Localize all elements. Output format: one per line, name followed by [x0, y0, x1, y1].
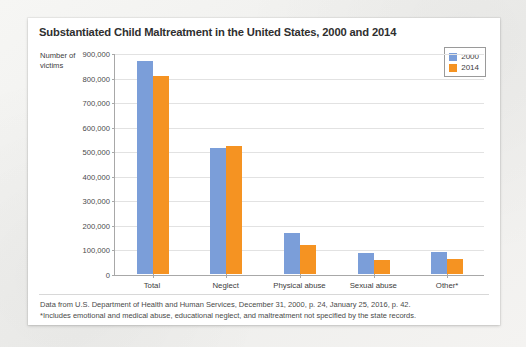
y-axis-tick-mark: [112, 54, 115, 55]
bar-2014: [153, 76, 169, 274]
bar-groups: [116, 54, 484, 274]
x-axis-tick-labels: TotalNeglectPhysical abuseSexual abuseOt…: [115, 276, 484, 290]
y-axis-tick-label: 700,000: [83, 99, 110, 108]
y-axis-tick-mark: [112, 177, 115, 178]
y-axis-tick-mark: [112, 250, 115, 251]
x-axis-tick-label: Sexual abuse: [336, 276, 410, 290]
y-axis-tick-mark: [112, 201, 115, 202]
x-axis-tick-label: Physical abuse: [263, 276, 337, 290]
y-axis-tick-label: 900,000: [83, 50, 110, 59]
y-axis-tick-label: 0: [106, 271, 110, 280]
chart-card: Substantiated Child Maltreatment in the …: [28, 18, 500, 325]
bar-2000: [358, 253, 374, 275]
y-axis-tick-label: 400,000: [83, 172, 110, 181]
y-axis-tick-label: 600,000: [83, 123, 110, 132]
y-axis-tick-mark: [112, 103, 115, 104]
bar-2014: [226, 146, 242, 274]
x-axis-tick-label: Other*: [410, 276, 484, 290]
chart-plot: 0100,000200,000300,000400,000500,000600,…: [114, 54, 484, 276]
x-axis-tick-label: Neglect: [189, 276, 263, 290]
bar-group: [263, 54, 337, 274]
footnote-divider: [39, 294, 489, 295]
bar-2000: [284, 233, 300, 274]
y-axis-tick-mark: [112, 128, 115, 129]
y-axis-tick-label: 200,000: [83, 221, 110, 230]
y-axis-tick-mark: [112, 152, 115, 153]
x-axis-tick-label: Total: [115, 276, 189, 290]
plot-area: 0100,000200,000300,000400,000500,000600,…: [114, 54, 484, 276]
y-axis-tick-label: 800,000: [83, 74, 110, 83]
y-axis-tick-mark: [112, 226, 115, 227]
footnote-source: Data from U.S. Department of Health and …: [40, 299, 490, 310]
bar-2000: [210, 148, 226, 274]
y-axis-title-line2: victims: [40, 61, 96, 71]
bar-2014: [374, 260, 390, 274]
bar-group: [116, 54, 190, 274]
bar-2000: [137, 61, 153, 274]
y-axis-tick-mark: [112, 79, 115, 80]
y-axis-tick-label: 100,000: [83, 246, 110, 255]
footnote-other-definition: *Includes emotional and medical abuse, e…: [40, 310, 490, 321]
bar-group: [410, 54, 484, 274]
bar-2014: [300, 245, 316, 274]
bar-group: [190, 54, 264, 274]
page-title: Substantiated Child Maltreatment in the …: [39, 26, 396, 38]
bar-2000: [431, 252, 447, 274]
bar-2014: [447, 259, 463, 274]
bar-group: [337, 54, 411, 274]
footnotes: Data from U.S. Department of Health and …: [40, 299, 490, 321]
y-axis-tick-label: 300,000: [83, 197, 110, 206]
y-axis-tick-label: 500,000: [83, 148, 110, 157]
